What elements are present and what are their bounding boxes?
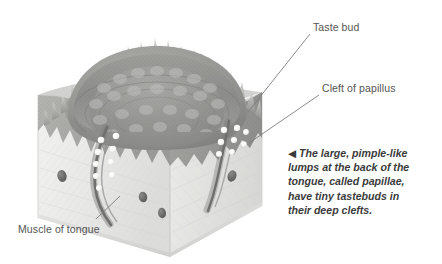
illustration-canvas: Taste bud Cleft of papillus Muscle of to…: [0, 0, 442, 264]
caption-line-5: their deep clefts.: [288, 203, 440, 217]
caption-arrow-icon: ◀: [288, 147, 299, 159]
caption-line-4: have tiny tastebuds in: [288, 189, 440, 203]
caption-line-1-text: The large, pimple-like: [299, 147, 407, 159]
label-taste-bud: Taste bud: [313, 21, 359, 33]
caption-line-2: lumps at the back of the: [288, 160, 440, 174]
label-muscle-of-tongue: Muscle of tongue: [18, 223, 100, 235]
leader-taste-bud: [248, 34, 310, 112]
caption-line-3: tongue, called papillae,: [288, 174, 440, 188]
caption-line-1: ◀ The large, pimple-like: [288, 146, 440, 160]
figure-caption: ◀ The large, pimple-like lumps at the ba…: [288, 146, 440, 217]
label-cleft-of-papillus: Cleft of papillus: [322, 82, 396, 94]
